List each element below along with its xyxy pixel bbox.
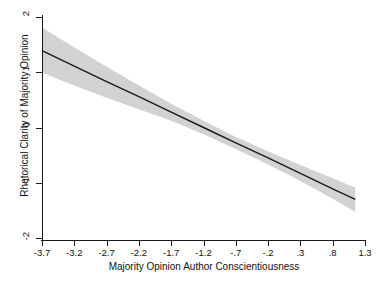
x-tick-mark (139, 241, 140, 246)
y-tick-mark (36, 17, 42, 18)
y-axis-line (42, 15, 43, 241)
x-tick-label: -2.2 (131, 247, 147, 258)
x-axis-title: Majority Opinion Author Conscientiousnes… (42, 261, 366, 272)
x-tick-label: .8 (329, 247, 337, 258)
x-tick-mark (171, 241, 172, 246)
x-tick-label: 1.3 (358, 247, 371, 258)
y-tick-mark (36, 72, 42, 73)
y-tick-mark (36, 128, 42, 129)
x-tick-mark (300, 241, 301, 246)
x-tick-label: -1.2 (195, 247, 211, 258)
chart-plot-area (0, 0, 387, 287)
x-tick-label: -.7 (230, 247, 241, 258)
x-tick-mark (107, 241, 108, 246)
y-tick-mark (36, 238, 42, 239)
x-tick-mark (204, 241, 205, 246)
y-tick-mark (36, 183, 42, 184)
x-tick-label: .3 (296, 247, 304, 258)
x-tick-label: -3.7 (34, 247, 50, 258)
x-tick-label: -3.2 (66, 247, 82, 258)
confidence-band (42, 28, 355, 213)
x-tick-mark (333, 241, 334, 246)
regression-line (42, 51, 355, 200)
x-tick-mark (268, 241, 269, 246)
x-tick-mark (365, 241, 366, 246)
y-tick-label-text: -2 (20, 232, 32, 240)
x-tick-label: -1.7 (163, 247, 179, 258)
y-axis-title: Rhetorical Clarity of Majority Opinion (19, 6, 30, 226)
chart-figure: -2-1012 -3.7-3.2-2.7-2.2-1.7-1.2-.7-.2.3… (0, 0, 387, 287)
x-tick-mark (74, 241, 75, 246)
x-tick-label: -.2 (263, 247, 274, 258)
x-tick-mark (42, 241, 43, 246)
y-tick-label: -2 (0, 232, 34, 244)
x-tick-mark (236, 241, 237, 246)
x-tick-label: -2.7 (98, 247, 114, 258)
